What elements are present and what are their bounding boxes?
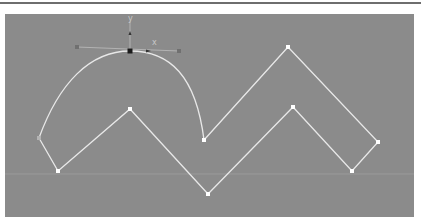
spline-vertex[interactable] <box>376 140 380 144</box>
move-gizmo[interactable]: y x <box>75 14 181 53</box>
tangent-handle-left[interactable] <box>75 45 79 49</box>
x-axis-label: x <box>152 38 157 47</box>
spline-vertex[interactable] <box>128 107 132 111</box>
spline-canvas[interactable]: y x <box>5 14 414 217</box>
spline-vertex[interactable] <box>37 136 41 140</box>
tangent-handle-right[interactable] <box>177 49 181 53</box>
spline-vertex[interactable] <box>206 192 210 196</box>
spline-vertex[interactable] <box>56 169 60 173</box>
selected-vertex[interactable] <box>128 49 133 54</box>
spline-curve-segment[interactable] <box>39 51 204 140</box>
top-divider <box>0 2 421 4</box>
spline-vertex[interactable] <box>291 105 295 109</box>
spline-vertex[interactable] <box>202 138 206 142</box>
3d-viewport[interactable]: y x <box>5 14 414 217</box>
spline-linear-segments[interactable] <box>39 47 378 194</box>
y-arrowhead-icon <box>129 31 132 35</box>
spline-vertices[interactable] <box>37 45 380 196</box>
y-axis-label: y <box>128 14 133 23</box>
spline-vertex[interactable] <box>350 169 354 173</box>
spline-vertex[interactable] <box>286 45 290 49</box>
